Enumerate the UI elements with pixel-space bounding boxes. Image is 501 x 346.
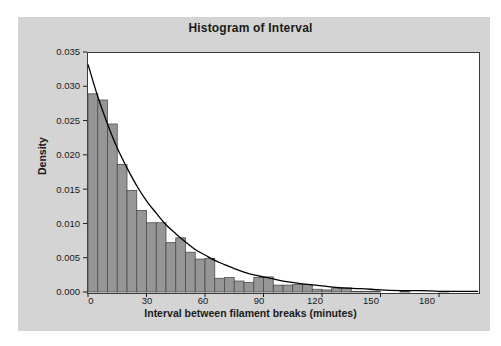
x-tick-label: 90: [239, 295, 279, 306]
x-tick-label: 180: [407, 295, 447, 306]
x-tick-label: 0: [71, 295, 111, 306]
y-axis-ticks: 0.035 0.030 0.025 0.020 0.015 0.010 0.00…: [30, 0, 80, 300]
plot-area: [87, 52, 480, 294]
x-tick-label: 30: [127, 295, 167, 306]
y-tick-label: 0.025: [36, 116, 80, 126]
y-tick-label: 0.015: [36, 185, 80, 195]
figure-container: Histogram of Interval Density 0.035 0.03…: [0, 0, 501, 346]
x-axis-label: Interval between filament breaks (minute…: [0, 307, 501, 319]
y-tick-label: 0.035: [36, 47, 80, 57]
y-tick-label: 0.030: [36, 81, 80, 91]
y-tick-label: 0.010: [36, 219, 80, 229]
x-tick-label: 120: [295, 295, 335, 306]
x-tick-label: 60: [183, 295, 223, 306]
x-tick-label: 150: [351, 295, 391, 306]
y-tick-label: 0.020: [36, 150, 80, 160]
y-tick-label: 0.005: [36, 253, 80, 263]
